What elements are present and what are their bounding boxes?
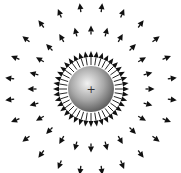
middle-ring-arrow (117, 34, 123, 42)
inner-ring-arrow (89, 113, 94, 127)
inner-ring-arrow (115, 92, 129, 97)
outer-ring-arrow (5, 76, 14, 82)
outer-ring-arrow (152, 36, 159, 42)
outer-ring-arrow (11, 55, 19, 61)
inner-ring-arrow (94, 51, 99, 65)
inner-ring-arrow (53, 92, 67, 97)
inner-ring-arrow (98, 112, 103, 125)
outer-ring-arrow (22, 136, 29, 142)
outer-ring-arrow (163, 55, 171, 61)
outer-ring-arrow (138, 150, 144, 157)
outer-ring-arrow (119, 161, 125, 169)
inner-ring-arrow (53, 87, 67, 92)
outer-ring-arrow (152, 136, 159, 142)
outer-ring-arrow (22, 36, 29, 42)
middle-ring-arrow (144, 101, 153, 107)
inner-ring-arrow (98, 53, 103, 66)
middle-ring-arrow (30, 71, 39, 77)
outer-ring-arrow (38, 150, 44, 157)
middle-ring-arrow (138, 115, 146, 121)
electric-field-diagram: + (0, 0, 181, 173)
middle-ring-arrow (73, 28, 79, 37)
middle-ring-arrow (88, 144, 94, 153)
middle-ring-arrow (59, 34, 65, 42)
middle-ring-arrow (138, 57, 146, 63)
inner-ring-arrow (55, 96, 68, 101)
outer-ring-arrow (78, 3, 84, 12)
outer-ring-arrow (119, 9, 125, 17)
charge-sphere: + (68, 66, 114, 112)
inner-ring-arrow (84, 51, 89, 65)
inner-ring-arrow (89, 51, 94, 65)
outer-ring-arrow (5, 97, 14, 103)
middle-ring-arrow (30, 101, 39, 107)
middle-ring-arrow (28, 86, 37, 92)
inner-ring-arrow (79, 53, 84, 66)
middle-ring-arrow (88, 26, 94, 35)
middle-ring-arrow (103, 142, 109, 151)
middle-ring-arrow (103, 28, 109, 37)
middle-ring-arrow (46, 128, 52, 134)
inner-ring-arrow (114, 96, 127, 101)
inner-ring-arrow (115, 82, 129, 87)
plus-sign-icon: + (86, 83, 95, 96)
inner-ring-arrow (115, 87, 129, 92)
outer-ring-arrow (138, 20, 144, 27)
inner-ring-arrow (84, 113, 89, 127)
inner-ring-arrow (79, 112, 84, 125)
outer-ring-arrow (168, 76, 177, 82)
outer-ring-arrow (38, 20, 44, 27)
inner-ring-arrow (53, 82, 67, 87)
outer-ring-arrow (78, 166, 84, 173)
middle-ring-arrow (117, 136, 123, 144)
middle-ring-arrow (144, 71, 153, 77)
outer-ring-arrow (163, 117, 171, 123)
middle-ring-arrow (59, 136, 65, 144)
outer-ring-arrow (99, 3, 105, 12)
middle-ring-arrow (73, 142, 79, 151)
middle-ring-arrow (146, 86, 155, 92)
inner-ring-arrow (94, 113, 99, 127)
inner-ring-arrow (114, 77, 127, 82)
outer-ring-arrow (57, 9, 63, 17)
inner-ring-arrow (55, 77, 68, 82)
middle-ring-arrow (130, 128, 136, 134)
outer-ring-arrow (11, 117, 19, 123)
middle-ring-arrow (36, 57, 44, 63)
middle-ring-arrow (130, 44, 136, 50)
outer-ring-arrow (168, 97, 177, 103)
outer-ring-arrow (99, 166, 105, 173)
outer-ring-arrow (57, 161, 63, 169)
middle-ring-arrow (36, 115, 44, 121)
middle-ring-arrow (46, 44, 52, 50)
